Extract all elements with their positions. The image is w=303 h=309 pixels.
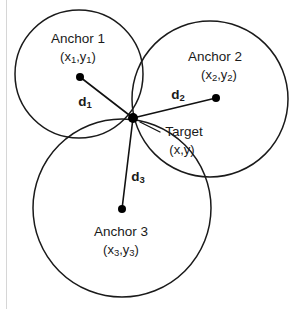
anchor-2-coordinates: (x2,y2) <box>201 67 237 83</box>
anchor-dot-2 <box>212 94 220 102</box>
anchor-dot-1 <box>76 73 84 81</box>
target-coordinates: (x,y) <box>169 142 194 157</box>
distance-label-d3: d3 <box>131 169 145 185</box>
target-dot <box>128 113 138 123</box>
anchor-2-label: Anchor 2 <box>188 49 242 64</box>
trilateration-diagram: Anchor 1 (x1,y1) Anchor 2 (x2,y2) Anchor… <box>0 0 303 309</box>
distance-label-d2: d2 <box>171 87 185 103</box>
anchor-3-label: Anchor 3 <box>94 224 148 239</box>
target-label: Target <box>165 124 203 139</box>
distance-label-d1: d1 <box>78 94 92 110</box>
anchor-3-coordinates: (x3,y3) <box>103 242 139 258</box>
distance-line-d3 <box>122 118 133 209</box>
diagram-canvas: Anchor 1 (x1,y1) Anchor 2 (x2,y2) Anchor… <box>0 0 303 309</box>
anchor-1-coordinates: (x1,y1) <box>60 49 96 65</box>
distance-line-d1 <box>80 77 133 118</box>
anchor-dot-3 <box>118 205 126 213</box>
anchor-1-label: Anchor 1 <box>51 31 105 46</box>
